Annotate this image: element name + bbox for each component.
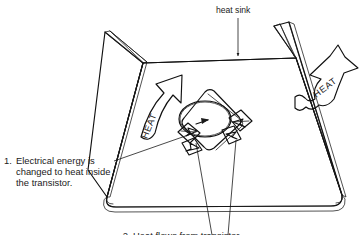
heat-sink-left-crease (107, 63, 143, 197)
diagram-root: HEAT HEAT heat sink 1. Electrical energy… (0, 0, 363, 235)
heat-sink-diagram: HEAT HEAT heat sink 1. Electrical energy… (0, 0, 363, 235)
heat-arrow-left: HEAT (140, 75, 182, 140)
heat-sink-callout: heat sink (216, 5, 251, 56)
step-1-callout: 1. Electrical energy is changed to heat … (4, 133, 194, 188)
bottom-caption-callout: 2. Heat flows from transistor (123, 140, 240, 235)
heat-sink-label: heat sink (216, 5, 251, 15)
conduction-arrow-shaft-head-left (201, 118, 209, 124)
heat-sink-channel (88, 22, 346, 212)
bottom-leader-line-left (196, 143, 212, 235)
heat-sink-back-edge (143, 58, 296, 63)
heat-sink-left-wall-outer (107, 31, 147, 197)
power-transistor (178, 90, 252, 155)
transistor-flange (182, 90, 241, 150)
step-1-line-3: the transistor. (16, 177, 72, 188)
bottom-caption-label: 2. Heat flows from transistor (123, 230, 240, 235)
bottom-leader-line-right (228, 140, 236, 235)
step-1-line-2: changed to heat inside (16, 166, 110, 177)
step-1-leader-line (114, 133, 194, 161)
heat-arrow-right: HEAT (295, 45, 358, 110)
heat-sink-front-lip (103, 195, 345, 212)
heat-sink-right-wall-rear-edge (280, 24, 294, 56)
heat-sink-front-corner-left (107, 197, 113, 204)
step-1-line-1: Electrical energy is (16, 155, 95, 166)
heat-arrow-left-label: HEAT (140, 112, 159, 140)
step-1-number: 1. (4, 155, 12, 166)
